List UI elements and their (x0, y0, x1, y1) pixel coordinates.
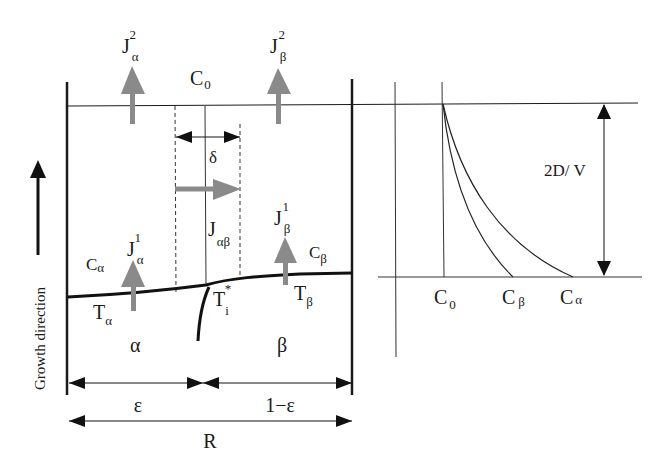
profile-c-alpha (443, 104, 573, 277)
grain-boundary (198, 287, 209, 341)
growth-direction-arrowhead (30, 160, 46, 178)
dashed-line-left (175, 106, 176, 292)
delta-arrowhead-left (176, 131, 192, 143)
temp-beta-label: Tβ (294, 282, 313, 309)
flux-beta-top-label: Jβ2 (270, 27, 287, 64)
temp-alpha-label: Tα (93, 301, 112, 328)
right-panel: 2D/ V C0 Cβ Cα (378, 82, 642, 357)
diffusion-length-label: 2D/ V (544, 161, 586, 180)
center-line (205, 106, 206, 285)
flux-alpha-bottom-arrow (121, 260, 145, 311)
temp-interface-label: Ti* (213, 281, 231, 318)
flux-beta-bottom-arrow (274, 237, 297, 285)
phase-beta-label: β (277, 334, 287, 357)
c0-axis-label: C0 (434, 286, 456, 312)
flux-beta-top-arrow (267, 68, 291, 124)
one-minus-epsilon-label: 1−ε (265, 394, 295, 416)
growth-direction-label: Growth direction (32, 287, 48, 390)
c-alpha-axis-label: Cα (560, 286, 582, 308)
c-beta-axis-label: Cβ (502, 286, 525, 309)
left-panel: δ Jαβ Jα2 Jβ2 C0 Jα1 Jβ1 (30, 27, 638, 452)
flux-beta-bottom-label: Jβ1 (274, 199, 291, 236)
right-axis-vertical (395, 82, 396, 357)
delta-arrowhead-right (224, 131, 240, 143)
flux-alpha-top-label: Jα2 (122, 27, 139, 64)
epsilon-label: ε (134, 394, 142, 416)
profile-c-beta (443, 104, 513, 277)
lateral-flux-arrowhead (213, 179, 241, 200)
top-concentration-label: C0 (190, 67, 211, 92)
conc-alpha-label: Cα (86, 255, 104, 275)
flux-alpha-top-arrow (121, 66, 145, 124)
eutectic-growth-diagram: δ Jαβ Jα2 Jβ2 C0 Jα1 Jβ1 (0, 0, 666, 469)
lateral-flux-label: Jαβ (208, 218, 231, 249)
conc-beta-label: Cβ (309, 243, 327, 266)
phase-alpha-label: α (130, 334, 141, 356)
total-width-label: R (203, 430, 217, 452)
flux-alpha-bottom-label: Jα1 (127, 230, 144, 267)
delta-label: δ (209, 148, 217, 167)
